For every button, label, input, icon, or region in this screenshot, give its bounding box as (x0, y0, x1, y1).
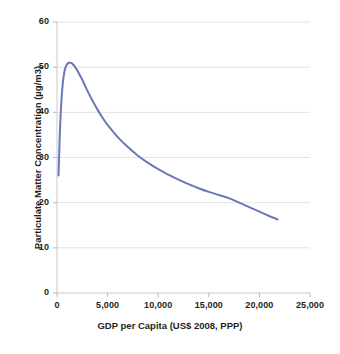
data-series (59, 63, 278, 220)
y-axis-title: Particulate Matter Concentration (µg/m3) (32, 43, 43, 273)
chart-container: 0102030405060 05,00010,00015,00020,00025… (0, 0, 340, 354)
axis-ticks (53, 22, 310, 297)
y-tick-label: 0 (25, 287, 49, 297)
series-line (59, 63, 278, 220)
x-axis-title: GDP per Capita (US$ 2008, PPP) (0, 320, 340, 331)
y-tick-label: 60 (25, 16, 49, 26)
x-tick-label: 25,000 (280, 300, 340, 310)
gridlines (57, 22, 310, 248)
